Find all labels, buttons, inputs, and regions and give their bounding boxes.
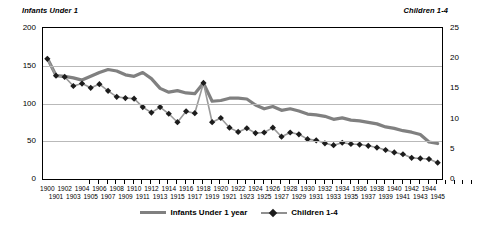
x-tick-1934 bbox=[384, 180, 385, 184]
data-marker-1905 bbox=[88, 85, 94, 91]
x-label-1924: 1924 bbox=[248, 185, 262, 192]
data-marker-1940 bbox=[391, 149, 397, 155]
data-marker-1929 bbox=[296, 131, 302, 137]
x-label-1939: 1939 bbox=[378, 193, 392, 200]
x-label-1930: 1930 bbox=[300, 185, 314, 192]
legend-item-infants: Infants Under 1 year bbox=[140, 208, 247, 217]
x-tick-1940 bbox=[436, 180, 437, 184]
data-marker-1919 bbox=[209, 119, 215, 125]
x-label-1920: 1920 bbox=[214, 185, 228, 192]
data-marker-1943 bbox=[417, 155, 423, 161]
right-y-tick-25: 25 bbox=[450, 23, 478, 32]
x-tick-1929 bbox=[341, 180, 342, 184]
x-tick-1914 bbox=[211, 180, 212, 184]
x-label-1937: 1937 bbox=[361, 193, 375, 200]
x-label-1945: 1945 bbox=[430, 193, 444, 200]
x-label-1927: 1927 bbox=[274, 193, 288, 200]
x-label-1900: 1900 bbox=[40, 185, 54, 192]
data-marker-1904 bbox=[79, 80, 85, 86]
x-label-1906: 1906 bbox=[92, 185, 106, 192]
right-y-tick-15: 15 bbox=[450, 83, 478, 92]
x-label-1935: 1935 bbox=[344, 193, 358, 200]
x-tick-1928 bbox=[332, 180, 333, 184]
x-tick-1944 bbox=[471, 180, 472, 184]
left-y-tick-200: 200 bbox=[8, 23, 36, 32]
x-tick-1919 bbox=[254, 180, 255, 184]
data-marker-1924 bbox=[252, 130, 258, 136]
right-y-tick-10: 10 bbox=[450, 114, 478, 123]
x-label-1916: 1916 bbox=[179, 185, 193, 192]
x-tick-1935 bbox=[393, 180, 394, 184]
x-label-1932: 1932 bbox=[318, 185, 332, 192]
x-tick-1908 bbox=[159, 180, 160, 184]
x-label-1904: 1904 bbox=[75, 185, 89, 192]
x-label-1940: 1940 bbox=[387, 185, 401, 192]
x-tick-1939 bbox=[428, 180, 429, 184]
x-tick-1902 bbox=[107, 180, 108, 184]
x-label-1919: 1919 bbox=[205, 193, 219, 200]
x-tick-1931 bbox=[358, 180, 359, 184]
x-label-1926: 1926 bbox=[266, 185, 280, 192]
x-label-1908: 1908 bbox=[109, 185, 123, 192]
x-label-1905: 1905 bbox=[83, 193, 97, 200]
x-tick-1901 bbox=[98, 180, 99, 184]
data-marker-1917 bbox=[192, 110, 198, 116]
x-tick-1906 bbox=[141, 180, 142, 184]
x-label-1942: 1942 bbox=[404, 185, 418, 192]
x-tick-1932 bbox=[367, 180, 368, 184]
x-tick-1915 bbox=[219, 180, 220, 184]
x-label-1931: 1931 bbox=[309, 193, 323, 200]
x-tick-1927 bbox=[324, 180, 325, 184]
x-label-1921: 1921 bbox=[222, 193, 236, 200]
x-tick-1917 bbox=[237, 180, 238, 184]
left-y-tick-0: 0 bbox=[8, 174, 36, 183]
data-marker-1925 bbox=[261, 129, 267, 135]
x-label-1925: 1925 bbox=[257, 193, 271, 200]
x-tick-1920 bbox=[263, 180, 264, 184]
data-marker-1922 bbox=[235, 129, 241, 135]
data-marker-1933 bbox=[330, 142, 336, 148]
x-label-1936: 1936 bbox=[352, 185, 366, 192]
left-y-tick-50: 50 bbox=[8, 136, 36, 145]
x-label-1923: 1923 bbox=[240, 193, 254, 200]
gridline-150 bbox=[43, 66, 442, 67]
chart-legend: Infants Under 1 year Children 1-4 bbox=[0, 208, 478, 217]
x-label-1944: 1944 bbox=[422, 185, 436, 192]
x-tick-1903 bbox=[115, 180, 116, 184]
chart-container: Infants Under 1 Children 1-4 05010015020… bbox=[0, 0, 478, 230]
x-tick-1941 bbox=[445, 180, 446, 184]
x-label-1929: 1929 bbox=[292, 193, 306, 200]
x-tick-1923 bbox=[289, 180, 290, 184]
x-tick-1933 bbox=[376, 180, 377, 184]
x-label-1918: 1918 bbox=[196, 185, 210, 192]
data-marker-1945 bbox=[435, 160, 441, 166]
x-tick-1916 bbox=[228, 180, 229, 184]
x-tick-1921 bbox=[271, 180, 272, 184]
x-tick-1938 bbox=[419, 180, 420, 184]
x-tick-1904 bbox=[124, 180, 125, 184]
right-axis-title: Children 1-4 bbox=[403, 6, 448, 15]
gridline-50 bbox=[43, 141, 442, 142]
x-tick-1909 bbox=[167, 180, 168, 184]
legend-label-children: Children 1-4 bbox=[291, 208, 337, 217]
x-label-1917: 1917 bbox=[188, 193, 202, 200]
left-y-tick-100: 100 bbox=[8, 99, 36, 108]
x-label-1903: 1903 bbox=[66, 193, 80, 200]
data-marker-1937 bbox=[365, 143, 371, 149]
x-tick-1943 bbox=[462, 180, 463, 184]
x-label-1943: 1943 bbox=[413, 193, 427, 200]
legend-label-infants: Infants Under 1 year bbox=[170, 208, 247, 217]
right-y-tick-20: 20 bbox=[450, 53, 478, 62]
x-tick-1912 bbox=[193, 180, 194, 184]
x-label-1907: 1907 bbox=[101, 193, 115, 200]
x-tick-1907 bbox=[150, 180, 151, 184]
plot-area bbox=[42, 27, 443, 180]
data-marker-1944 bbox=[426, 156, 432, 162]
x-tick-1926 bbox=[315, 180, 316, 184]
x-tick-1925 bbox=[306, 180, 307, 184]
right-y-tick-5: 5 bbox=[450, 144, 478, 153]
x-label-1934: 1934 bbox=[335, 185, 349, 192]
x-tick-1924 bbox=[298, 180, 299, 184]
x-tick-1936 bbox=[402, 180, 403, 184]
x-axis-tick-labels: 1900190119021903190419051906190719081909… bbox=[0, 185, 478, 205]
